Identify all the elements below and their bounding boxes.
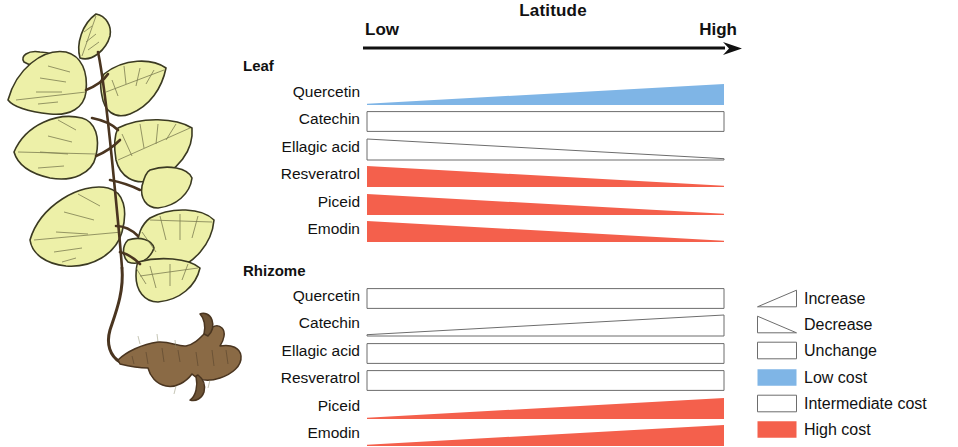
legend-label: Low cost <box>804 365 867 390</box>
high-cost-swatch-icon <box>757 420 797 439</box>
legend-item: Decrease <box>757 312 957 338</box>
compound-label: Resveratrol <box>90 165 360 183</box>
compound-label: Catechin <box>90 314 360 332</box>
increase-triangle-icon <box>757 289 797 308</box>
intermediate-cost-swatch-icon <box>757 394 797 413</box>
low-cost-swatch-icon <box>757 368 797 387</box>
group-title-rhizome: Rhizome <box>243 262 306 279</box>
legend-item: Increase <box>757 286 957 312</box>
legend-item: Intermediate cost <box>757 391 957 417</box>
trend-bar-unchange-intermediate-cost <box>367 343 724 364</box>
compound-label: Piceid <box>90 397 360 415</box>
compound-label: Ellagic acid <box>90 342 360 360</box>
legend-label: Decrease <box>804 312 872 337</box>
latitude-axis-header: Latitude Low High <box>363 0 743 58</box>
trend-bar-decrease-high-cost <box>367 194 724 215</box>
trend-bar-increase-low-cost <box>367 84 724 105</box>
trend-bar-unchange-intermediate-cost <box>367 370 724 391</box>
trend-bar-decrease-intermediate-cost <box>367 139 724 160</box>
legend-label: High cost <box>804 417 871 442</box>
unchange-rectangle-icon <box>757 341 797 360</box>
compound-label: Catechin <box>90 110 360 128</box>
compound-label: Quercetin <box>90 83 360 101</box>
legend-label: Increase <box>804 286 865 311</box>
group-title-leaf: Leaf <box>243 57 274 74</box>
compound-label: Quercetin <box>90 287 360 305</box>
legend-item: Unchange <box>757 338 957 364</box>
legend-item: High cost <box>757 417 957 443</box>
legend-item: Low cost <box>757 365 957 391</box>
axis-title: Latitude <box>363 1 743 21</box>
trend-bar-unchange-intermediate-cost <box>367 111 724 132</box>
trend-bar-increase-high-cost <box>367 425 724 446</box>
trend-bar-decrease-high-cost <box>367 166 724 187</box>
compound-label: Ellagic acid <box>90 138 360 156</box>
trend-bar-increase-intermediate-cost <box>367 315 724 336</box>
compound-label: Piceid <box>90 193 360 211</box>
legend: IncreaseDecreaseUnchangeLow costIntermed… <box>757 286 957 446</box>
legend-label: Unchange <box>804 338 877 363</box>
compound-label: Emodin <box>90 424 360 442</box>
compound-label: Resveratrol <box>90 369 360 387</box>
trend-bar-increase-high-cost <box>367 398 724 419</box>
axis-low-label: Low <box>365 20 399 40</box>
legend-label: Intermediate cost <box>804 391 927 416</box>
trend-bar-decrease-high-cost <box>367 221 724 242</box>
decrease-triangle-icon <box>757 315 797 334</box>
axis-high-label: High <box>699 20 737 40</box>
figure-panel: Latitude Low High LeafQuercetinCatechinE… <box>0 0 958 447</box>
trend-bar-unchange-intermediate-cost <box>367 288 724 309</box>
axis-arrow-icon <box>363 42 743 58</box>
compound-label: Emodin <box>90 220 360 238</box>
